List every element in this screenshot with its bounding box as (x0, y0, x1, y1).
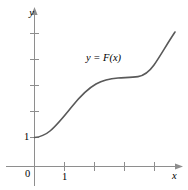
x-tick-label-1: 1 (59, 171, 70, 182)
origin-label: 0 (22, 168, 33, 179)
figure-container: y x 0 1 1 y = F(x) (0, 0, 188, 190)
graph-canvas (0, 0, 188, 190)
x-axis-label: x (172, 170, 184, 181)
y-tick-label-1: 1 (21, 131, 32, 142)
y-axis-label: y (22, 7, 34, 18)
function-curve (35, 32, 176, 138)
x-axis-arrowhead (175, 163, 183, 169)
curve-annotation-label: y = F(x) (86, 52, 146, 63)
